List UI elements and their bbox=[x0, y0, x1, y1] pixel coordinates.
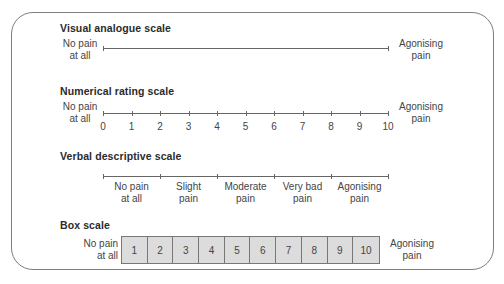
vds-item-line2: pain bbox=[273, 193, 333, 205]
box-cell[interactable]: 4 bbox=[199, 237, 225, 263]
box-cell[interactable]: 5 bbox=[225, 237, 251, 263]
nrs-tick bbox=[103, 111, 104, 116]
box-right-label: Agonising pain bbox=[384, 238, 440, 262]
vds-item-line1: Agonising bbox=[330, 181, 390, 193]
box-left-label-line2: at all bbox=[74, 250, 118, 262]
vds-item-line1: Moderate bbox=[216, 181, 276, 193]
nrs-number: 0 bbox=[95, 121, 111, 132]
vds-tick bbox=[103, 174, 104, 179]
nrs-tick bbox=[331, 111, 332, 116]
nrs-number: 7 bbox=[295, 121, 311, 132]
vds-item-line1: Very bad bbox=[273, 181, 333, 193]
box-cell[interactable]: 3 bbox=[173, 237, 199, 263]
vas-left-label: No pain at all bbox=[58, 38, 102, 62]
nrs-number: 8 bbox=[323, 121, 339, 132]
box-cell[interactable]: 8 bbox=[302, 237, 328, 263]
box-cell[interactable]: 6 bbox=[250, 237, 276, 263]
nrs-tick bbox=[246, 111, 247, 116]
box-scale-boxes: 1 2 3 4 5 6 7 8 9 10 bbox=[121, 236, 380, 264]
nrs-number: 1 bbox=[124, 121, 140, 132]
box-cell[interactable]: 9 bbox=[328, 237, 354, 263]
vds-item-line2: pain bbox=[159, 193, 219, 205]
nrs-tick bbox=[217, 111, 218, 116]
nrs-number: 3 bbox=[181, 121, 197, 132]
vds-item-agonising: Agonising pain bbox=[330, 181, 390, 205]
vds-item-moderate: Moderate pain bbox=[216, 181, 276, 205]
vds-item-line2: pain bbox=[330, 193, 390, 205]
vds-tick bbox=[274, 174, 275, 179]
vas-tick-start bbox=[103, 46, 104, 51]
vds-item-no-pain: No pain at all bbox=[102, 181, 162, 205]
nrs-number: 9 bbox=[352, 121, 368, 132]
vds-tick bbox=[160, 174, 161, 179]
box-cell[interactable]: 7 bbox=[276, 237, 302, 263]
nrs-title: Numerical rating scale bbox=[60, 85, 174, 97]
box-right-label-line1: Agonising bbox=[384, 238, 440, 250]
box-cell[interactable]: 10 bbox=[353, 237, 379, 263]
nrs-number: 6 bbox=[266, 121, 282, 132]
box-left-label-line1: No pain bbox=[74, 238, 118, 250]
nrs-tick bbox=[189, 111, 190, 116]
box-cell[interactable]: 2 bbox=[148, 237, 174, 263]
vas-right-label-line1: Agonising bbox=[393, 38, 449, 50]
nrs-tick bbox=[132, 111, 133, 116]
vas-right-label-line2: pain bbox=[393, 50, 449, 62]
vas-left-label-line2: at all bbox=[58, 50, 102, 62]
vds-tick bbox=[388, 174, 389, 179]
nrs-tick bbox=[388, 111, 389, 116]
vds-item-line2: pain bbox=[216, 193, 276, 205]
nrs-number: 2 bbox=[152, 121, 168, 132]
vds-tick bbox=[217, 174, 218, 179]
vas-line bbox=[103, 48, 389, 49]
vas-tick-end bbox=[388, 46, 389, 51]
nrs-tick bbox=[303, 111, 304, 116]
vds-title: Verbal descriptive scale bbox=[60, 150, 181, 162]
box-right-label-line2: pain bbox=[384, 250, 440, 262]
box-title: Box scale bbox=[60, 219, 110, 231]
vds-item-line1: No pain bbox=[102, 181, 162, 193]
nrs-number: 4 bbox=[209, 121, 225, 132]
nrs-tick bbox=[360, 111, 361, 116]
nrs-tick bbox=[160, 111, 161, 116]
vds-line bbox=[103, 176, 389, 177]
nrs-number: 5 bbox=[238, 121, 254, 132]
nrs-right-label-line1: Agonising bbox=[393, 101, 449, 113]
box-cell[interactable]: 1 bbox=[122, 237, 148, 263]
vas-left-label-line1: No pain bbox=[58, 38, 102, 50]
vds-item-line1: Slight bbox=[159, 181, 219, 193]
box-left-label: No pain at all bbox=[74, 238, 118, 262]
vds-item-slight: Slight pain bbox=[159, 181, 219, 205]
nrs-right-label-line2: pain bbox=[393, 113, 449, 125]
nrs-right-label: Agonising pain bbox=[393, 101, 449, 125]
vds-item-very-bad: Very bad pain bbox=[273, 181, 333, 205]
nrs-left-label-line1: No pain bbox=[58, 101, 102, 113]
vas-right-label: Agonising pain bbox=[393, 38, 449, 62]
nrs-tick bbox=[274, 111, 275, 116]
vds-item-line2: at all bbox=[102, 193, 162, 205]
vds-tick bbox=[331, 174, 332, 179]
vas-title: Visual analogue scale bbox=[60, 22, 171, 34]
